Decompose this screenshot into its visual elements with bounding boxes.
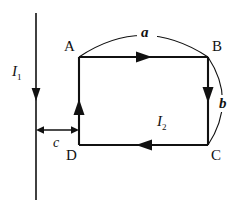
- dimension-c-arrowhead-left: [36, 126, 44, 134]
- dimension-c-group: [36, 126, 79, 134]
- wire-group: [32, 13, 41, 200]
- corner-label-A: A: [64, 39, 75, 54]
- dimension-label-c: c: [53, 136, 59, 150]
- arc-label-a: a: [141, 25, 149, 40]
- arc-label-b: b: [219, 96, 227, 111]
- loop-arrowhead-left-up: [74, 99, 85, 115]
- loop-arrowhead-right-down: [203, 87, 214, 103]
- loop-arrowhead-top-right: [136, 52, 152, 63]
- physics-diagram: I1 I2 A B C D a b c: [0, 0, 240, 211]
- loop-arrowhead-bottom-left: [136, 140, 152, 151]
- wire-current-arrowhead: [32, 88, 41, 101]
- corner-label-C: C: [211, 148, 221, 163]
- current-label-I2-subscript: 2: [162, 122, 167, 132]
- corner-label-D: D: [66, 148, 77, 163]
- corner-label-B: B: [212, 39, 222, 54]
- current-label-I2: I2: [157, 114, 167, 132]
- current-label-I1-subscript: 1: [17, 72, 22, 82]
- diagram-canvas: [0, 0, 240, 211]
- current-label-I1: I1: [12, 64, 22, 82]
- dimension-c-arrowhead-right: [71, 126, 79, 134]
- loop-group: [74, 52, 214, 151]
